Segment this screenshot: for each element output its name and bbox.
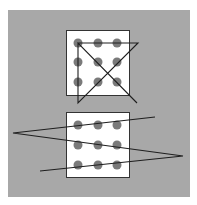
- dot: [113, 58, 122, 67]
- dot: [113, 161, 122, 170]
- dot: [113, 141, 122, 150]
- dot: [74, 161, 83, 170]
- dot: [94, 58, 103, 67]
- four-line-solution: [67, 31, 139, 104]
- dot: [94, 121, 103, 130]
- dot: [94, 78, 103, 87]
- nine-dots-diagram: [0, 0, 197, 205]
